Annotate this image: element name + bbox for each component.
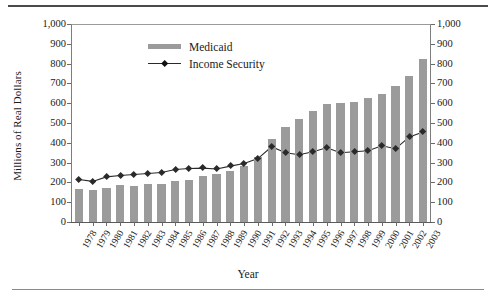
- bar-medicaid-2002: [405, 76, 413, 222]
- x-tickmark-1997: [341, 222, 342, 226]
- y-tick-left-200: 200: [26, 177, 66, 188]
- x-tickmark-2000: [382, 222, 383, 226]
- x-axis-line: [71, 222, 432, 223]
- bar-medicaid-1982: [130, 186, 138, 222]
- bar-medicaid-2000: [378, 94, 386, 222]
- bar-medicaid-1999: [364, 98, 372, 222]
- y-tick-left-700: 700: [26, 78, 66, 89]
- y-tick-right-400: 400: [437, 138, 479, 149]
- x-tickmark-1993: [285, 222, 286, 226]
- x-tickmark-1978: [79, 222, 80, 226]
- x-tickmark-1999: [368, 222, 369, 226]
- y-tick-left-100: 100: [26, 197, 66, 208]
- y-tick-right-600: 600: [437, 98, 479, 109]
- legend-item-medicaid: Medicaid: [148, 38, 308, 55]
- x-tickmark-1998: [354, 222, 355, 226]
- bar-medicaid-1983: [144, 184, 152, 222]
- legend-label-medicaid: Medicaid: [189, 41, 232, 53]
- y-tickmark-right: [431, 123, 435, 124]
- y-tick-left-300: 300: [26, 158, 66, 169]
- legend-label-income-security: Income Security: [189, 58, 265, 70]
- y-tickmark-right: [431, 24, 435, 25]
- y-tick-right-100: 100: [437, 197, 479, 208]
- x-tickmark-2002: [409, 222, 410, 226]
- y-tickmark-right: [431, 182, 435, 183]
- bar-medicaid-1990: [240, 166, 248, 222]
- y-tick-right-300: 300: [437, 158, 479, 169]
- y-tick-right-1000: 1,000: [437, 19, 479, 30]
- y-tickmark-right: [431, 44, 435, 45]
- x-tickmark-2001: [396, 222, 397, 226]
- y-tickmark-right: [431, 64, 435, 65]
- x-tickmark-1989: [230, 222, 231, 226]
- bar-medicaid-1996: [323, 104, 331, 222]
- bar-medicaid-1987: [199, 176, 207, 222]
- x-tickmark-1982: [134, 222, 135, 226]
- y-tick-left-400: 400: [26, 138, 66, 149]
- y-tickmark-right: [431, 202, 435, 203]
- x-tickmark-1991: [258, 222, 259, 226]
- bottom-rule: [12, 289, 484, 290]
- chart-figure: Millions of Real Dollars 010020030040050…: [0, 12, 496, 287]
- y-axis-title: Millions of Real Dollars: [11, 41, 23, 211]
- x-tickmark-1996: [327, 222, 328, 226]
- x-tickmark-1988: [217, 222, 218, 226]
- y-tick-right-0: 0: [437, 217, 479, 228]
- bar-medicaid-1980: [102, 188, 110, 222]
- x-tickmark-1979: [93, 222, 94, 226]
- x-tickmark-1984: [162, 222, 163, 226]
- bar-medicaid-2003: [419, 59, 427, 222]
- y-tickmark-right: [431, 163, 435, 164]
- bar-medicaid-1988: [212, 174, 220, 223]
- y-tick-right-500: 500: [437, 118, 479, 129]
- y-tick-right-700: 700: [437, 78, 479, 89]
- bar-medicaid-1989: [226, 171, 234, 222]
- x-tickmark-1980: [106, 222, 107, 226]
- x-tickmark-1990: [244, 222, 245, 226]
- x-tickmark-1985: [175, 222, 176, 226]
- bar-medicaid-1995: [309, 111, 317, 222]
- bar-medicaid-1981: [116, 185, 124, 222]
- x-tickmark-1986: [189, 222, 190, 226]
- bar-medicaid-1994: [295, 119, 303, 222]
- y-tick-left-500: 500: [26, 118, 66, 129]
- legend-item-income-security: Income Security: [148, 55, 308, 72]
- x-tickmark-1983: [148, 222, 149, 226]
- bar-medicaid-1991: [254, 157, 262, 222]
- y-tick-left-0: 0: [26, 217, 66, 228]
- x-tickmark-1995: [313, 222, 314, 226]
- bar-medicaid-2001: [391, 86, 399, 222]
- x-tickmark-1992: [272, 222, 273, 226]
- top-rule: [8, 5, 488, 7]
- bar-medicaid-1984: [157, 184, 165, 222]
- x-axis-title: Year: [0, 268, 496, 280]
- legend-bar-swatch-icon: [148, 44, 181, 49]
- y-tickmark-right: [431, 83, 435, 84]
- y-tick-left-600: 600: [26, 98, 66, 109]
- bar-medicaid-1986: [185, 180, 193, 222]
- bar-medicaid-1992: [268, 139, 276, 222]
- bar-medicaid-1979: [89, 190, 97, 222]
- y-tick-right-800: 800: [437, 59, 479, 70]
- x-tickmark-1994: [299, 222, 300, 226]
- y-tickmark-right: [431, 143, 435, 144]
- bar-medicaid-1998: [350, 102, 358, 222]
- y-tick-left-900: 900: [26, 39, 66, 50]
- y-tick-right-900: 900: [437, 39, 479, 50]
- y-tick-left-1000: 1,000: [26, 19, 66, 30]
- bar-medicaid-1993: [281, 127, 289, 222]
- x-tickmark-2003: [423, 222, 424, 226]
- y-tickmark-right: [431, 103, 435, 104]
- x-tickmark-1987: [203, 222, 204, 226]
- chart-legend: Medicaid Income Security: [148, 38, 308, 72]
- bar-medicaid-1997: [336, 103, 344, 222]
- bar-medicaid-1978: [75, 189, 83, 222]
- y-tick-left-800: 800: [26, 59, 66, 70]
- y-tick-right-200: 200: [437, 177, 479, 188]
- legend-line-marker-icon: [148, 60, 181, 67]
- bar-medicaid-1985: [171, 181, 179, 222]
- x-tickmark-1981: [120, 222, 121, 226]
